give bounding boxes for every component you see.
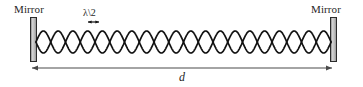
standing-wave-figure: Mirror Mirror λ\2 d — [0, 0, 363, 87]
arrowhead-left — [32, 65, 38, 70]
arrowhead-right — [326, 65, 332, 70]
distance-label: d — [179, 71, 185, 83]
